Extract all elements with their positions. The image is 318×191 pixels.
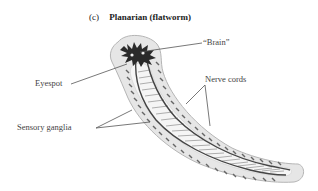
sensory-ganglia-leader-line-2 — [96, 122, 150, 128]
label-sensory-ganglia: Sensory ganglia — [17, 122, 72, 132]
planarian-diagram — [0, 0, 318, 191]
label-eyespot: Eyespot — [35, 78, 62, 88]
nerve-cords-leader-line-1 — [186, 85, 205, 104]
sensory-ganglia-leader-line-1 — [96, 110, 132, 128]
eyespot-left — [130, 53, 133, 56]
label-nerve-cords: Nerve cords — [205, 74, 246, 84]
label-brain: “Brain” — [203, 37, 229, 47]
nerve-cords-leader-line-2 — [205, 85, 210, 126]
